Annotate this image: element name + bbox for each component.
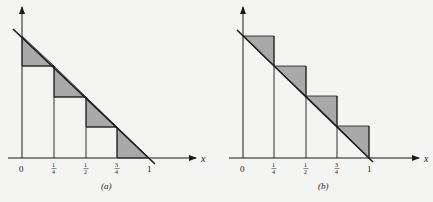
tick-label-half-a: 12 [84,162,89,175]
svg-text:1: 1 [272,162,275,168]
svg-text:4: 4 [52,169,55,175]
tick-label-quarter-a: 14 [52,162,57,175]
caption-a: (a) [101,181,112,191]
svg-text:2: 2 [84,169,87,175]
tick-label-three-quarter-b: 34 [335,162,340,175]
svg-text:4: 4 [272,169,275,175]
tick-label-0-b: 0 [240,164,245,174]
svg-text:3: 3 [335,162,338,168]
tick-label-1-b: 1 [367,164,372,174]
tick-label-0-a: 0 [19,164,24,174]
tick-label-1-a: 1 [147,164,152,174]
svg-text:3: 3 [115,162,118,168]
function-line-b [237,30,373,162]
svg-text:4: 4 [335,169,338,175]
riemann-sum-figure: x 0 14 12 34 1 (a) x 0 [0,0,433,202]
tick-label-half-b: 12 [304,162,309,175]
panel-b: x 0 14 12 34 1 (b) [229,7,429,191]
x-axis-label-a: x [200,153,206,164]
function-line-a [13,29,155,164]
svg-text:1: 1 [52,162,55,168]
tick-label-quarter-b: 14 [272,162,277,175]
x-axis-label-b: x [423,153,429,164]
svg-text:1: 1 [84,162,87,168]
svg-text:1: 1 [304,162,307,168]
panel-a: x 0 14 12 34 1 (a) [8,7,206,191]
svg-text:2: 2 [304,169,307,175]
caption-b: (b) [318,181,329,191]
svg-text:4: 4 [115,169,118,175]
tick-label-three-quarter-a: 34 [115,162,120,175]
rectangles-a [22,66,117,158]
